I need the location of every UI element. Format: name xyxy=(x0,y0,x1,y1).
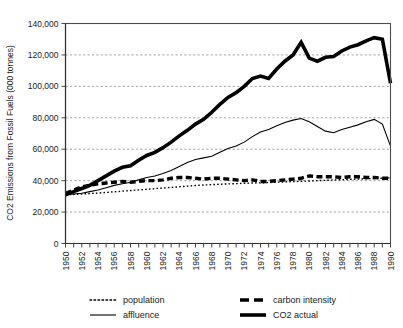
legend-label: carbon intensity xyxy=(273,295,337,305)
y-tick-label: 0 xyxy=(54,239,59,249)
legend-item-carbon-intensity[interactable]: carbon intensity xyxy=(240,295,337,305)
x-tick-label: 1988 xyxy=(369,251,379,270)
x-tick-label: 1958 xyxy=(126,251,136,270)
y-axis-title-group: CO2 Emissions from Fossil Fuels (000 ton… xyxy=(5,45,15,221)
x-tick-label: 1970 xyxy=(223,251,233,270)
y-tick-label: 20,000 xyxy=(33,207,59,217)
y-tick-label: 40,000 xyxy=(33,176,59,186)
x-tick-label: 1954 xyxy=(93,251,103,270)
gridlines xyxy=(66,55,391,212)
x-tick-label: 1974 xyxy=(256,251,266,270)
legend-label: CO2 actual xyxy=(273,310,318,320)
y-tick-label: 80,000 xyxy=(33,113,59,123)
x-tick-label: 1984 xyxy=(337,251,347,270)
plot-area-border xyxy=(66,24,391,244)
y-axis-ticks: 020,00040,00060,00080,000100,000120,0001… xyxy=(28,19,66,249)
x-tick-label: 1950 xyxy=(61,251,71,270)
x-tick-label: 1980 xyxy=(304,251,314,270)
legend-item-affluence[interactable]: affluence xyxy=(90,310,159,320)
y-tick-label: 100,000 xyxy=(28,81,59,91)
x-tick-label: 1986 xyxy=(353,251,363,270)
data-series-group xyxy=(66,38,391,195)
legend-label: affluence xyxy=(123,310,159,320)
plot-frame xyxy=(66,24,391,245)
y-tick-label: 60,000 xyxy=(33,144,59,154)
x-tick-label: 1960 xyxy=(142,251,152,270)
legend-label: population xyxy=(123,295,165,305)
series-carbon-intensity xyxy=(66,176,391,193)
y-tick-label: 120,000 xyxy=(28,50,59,60)
x-tick-label: 1968 xyxy=(207,251,217,270)
x-tick-label: 1982 xyxy=(321,251,331,270)
x-tick-label: 1964 xyxy=(174,251,184,270)
y-axis-title: CO2 Emissions from Fossil Fuels (000 ton… xyxy=(5,45,15,221)
x-tick-label: 1962 xyxy=(158,251,168,270)
chart-container: CO2 Emissions from Fossil Fuels (000 ton… xyxy=(0,0,403,328)
series-CO2-actual xyxy=(66,38,391,195)
x-tick-label: 1976 xyxy=(272,251,282,270)
x-tick-label: 1972 xyxy=(239,251,249,270)
x-tick-label: 1990 xyxy=(386,251,396,270)
chart-legend: populationcarbon intensityaffluenceCO2 a… xyxy=(90,295,337,320)
y-tick-label: 140,000 xyxy=(28,19,59,29)
x-tick-label: 1978 xyxy=(288,251,298,270)
x-tick-label: 1966 xyxy=(191,251,201,270)
legend-item-CO2-actual[interactable]: CO2 actual xyxy=(240,310,318,320)
x-tick-label: 1956 xyxy=(109,251,119,270)
x-tick-label: 1952 xyxy=(77,251,87,270)
x-axis-ticks: 1950195219541956195819601962196419661968… xyxy=(61,244,396,271)
co2-emissions-line-chart: CO2 Emissions from Fossil Fuels (000 ton… xyxy=(0,0,403,328)
legend-item-population[interactable]: population xyxy=(90,295,165,305)
